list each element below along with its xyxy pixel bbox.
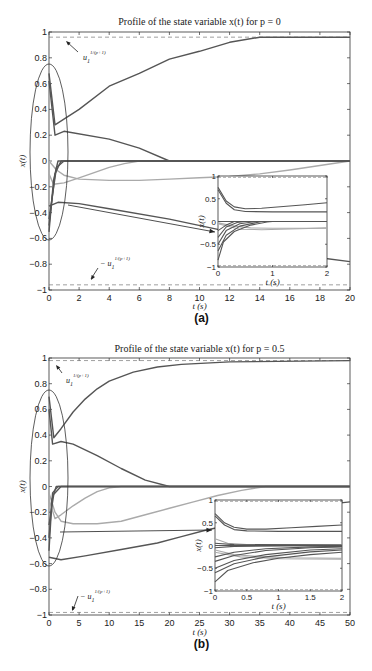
- panel-b-y-axis-label: x(t): [17, 480, 27, 494]
- panel-a-inset-y-tick-label: 1: [212, 172, 217, 181]
- panel-b-y-tick-label: 0.2: [34, 456, 47, 466]
- panel-b-inset-y-tick-label: 1: [209, 496, 214, 505]
- panel-b-x-tick-label: 0: [46, 618, 51, 628]
- panel-b-y-tick-label: −0.4: [29, 533, 47, 543]
- panel-b-inset-y-label: x(t): [193, 539, 203, 553]
- panel-b-title: Profile of the state variable x(t) for p…: [114, 343, 284, 355]
- panel-b-x-tick-label: 20: [164, 618, 174, 628]
- panel-a-x-tick-label: 0: [46, 293, 51, 303]
- panel-a-inset-y-tick-label: −1: [207, 263, 217, 272]
- panel-b-inset-x-tick-label: 2: [340, 593, 345, 602]
- panel-a-y-tick-label: −0.8: [29, 259, 47, 269]
- panel-a-inset-x-tick-label: 0: [216, 269, 221, 278]
- panel-b-inset-x-label: t (s): [271, 601, 285, 611]
- panel-b-x-axis-label: t (s): [192, 627, 206, 637]
- panel-a-x-tick-label: 14: [255, 293, 265, 303]
- panel-a-y-tick-label: −1: [37, 285, 47, 295]
- panel-a-x-tick-label: 4: [107, 293, 112, 303]
- panel-a-inset-y-tick-label: 0.5: [205, 195, 217, 204]
- chart-panel-b: Profile of the state variable x(t) for p…: [17, 343, 355, 651]
- panel-a-y-tick-label: 0.8: [34, 53, 47, 63]
- panel-b-x-tick-label: 45: [315, 618, 325, 628]
- panel-b-x-tick-label: 50: [345, 618, 355, 628]
- panel-a-x-tick-label: 6: [137, 293, 142, 303]
- panel-a-y-axis-label: x(t): [17, 155, 27, 169]
- panel-a-inset-y-tick-label: −0.5: [200, 240, 216, 249]
- panel-b-inset-y-tick-label: 0.5: [202, 519, 214, 528]
- panel-a-inset-y-tick-label: 0: [212, 218, 217, 227]
- panel-b-inset-x-tick-label: 0: [213, 593, 218, 602]
- panel-a-title: Profile of the state variable x(t) for p…: [118, 16, 281, 28]
- panel-a-x-axis-label: t (s): [192, 301, 206, 311]
- panel-b-y-tick-label: 0.8: [34, 379, 47, 389]
- panel-a-x-tick-label: 16: [285, 293, 295, 303]
- panel-b-x-tick-label: 35: [255, 618, 265, 628]
- panel-b-y-tick-label: 0.4: [34, 430, 47, 440]
- panel-b-x-tick-label: 30: [225, 618, 235, 628]
- panel-b-y-tick-label: −0.8: [29, 584, 47, 594]
- panel-b-x-tick-label: 10: [104, 618, 114, 628]
- panel-a-y-tick-label: −0.4: [29, 208, 47, 218]
- panel-a-x-tick-label: 18: [315, 293, 325, 303]
- panel-a-y-tick-label: −0.6: [29, 233, 47, 243]
- panel-b-x-tick-label: 5: [77, 618, 82, 628]
- chart-panel-a: Profile of the state variable x(t) for p…: [17, 16, 355, 325]
- panel-a-inset-x-label: t (s): [265, 277, 279, 287]
- panel-b-inset-x-tick-label: 1.5: [305, 593, 317, 602]
- panel-b-x-tick-label: 40: [285, 618, 295, 628]
- panel-a-y-tick-label: 0.2: [34, 130, 47, 140]
- panel-b-inset-y-tick-label: −0.5: [197, 564, 213, 573]
- panel-a-x-tick-label: 2: [77, 293, 82, 303]
- panel-a-x-tick-label: 20: [345, 293, 355, 303]
- panel-a-x-tick-label: 8: [167, 293, 172, 303]
- panel-b-y-tick-label: −1: [37, 610, 47, 620]
- panel-a-caption: (a): [194, 311, 209, 325]
- panel-b-inset-y-tick-label: −1: [204, 587, 214, 596]
- panel-b-x-tick-label: 15: [134, 618, 144, 628]
- panel-b-inset-y-tick-label: 0: [209, 542, 214, 551]
- figure: Profile of the state variable x(t) for p…: [0, 0, 372, 671]
- panel-a-y-tick-label: 1: [42, 27, 47, 37]
- panel-a-x-tick-label: 12: [225, 293, 235, 303]
- panel-b-y-tick-label: 1: [42, 353, 47, 363]
- panel-b-inset-x-tick-label: 0.5: [241, 593, 253, 602]
- panel-b-caption: (b): [194, 637, 209, 651]
- panel-a-inset-x-tick-label: 2: [325, 269, 330, 278]
- panel-a-inset-y-label: x(t): [196, 215, 206, 229]
- panel-a-y-tick-label: 0: [42, 156, 47, 166]
- panel-b-y-tick-label: 0: [42, 482, 47, 492]
- panel-a-y-tick-label: 0.4: [34, 104, 47, 114]
